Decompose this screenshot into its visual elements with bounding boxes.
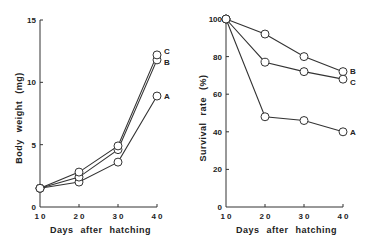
data-point-a xyxy=(339,128,347,136)
y-tick-label: 100 xyxy=(209,15,223,24)
data-point-c xyxy=(75,168,83,176)
series-line-b xyxy=(40,60,157,188)
series-label-c: C xyxy=(350,78,356,87)
x-tick-label: 1 0 xyxy=(220,212,232,221)
data-point-a xyxy=(300,117,308,125)
y-tick-label: 80 xyxy=(213,53,222,62)
x-tick-label: 4 0 xyxy=(151,212,163,221)
x-tick-label: 2 0 xyxy=(73,212,85,221)
y-axis-label: Survival rate (%) xyxy=(198,74,208,161)
data-point-a xyxy=(153,92,161,100)
x-axis-label: Days after hatching xyxy=(50,225,151,235)
data-point-b xyxy=(339,68,347,76)
data-point-c xyxy=(36,184,44,192)
x-tick-label: 1 0 xyxy=(34,212,46,221)
series-label-b: B xyxy=(350,67,356,76)
data-point-c xyxy=(222,15,230,23)
x-tick-label: 3 0 xyxy=(112,212,124,221)
data-point-c xyxy=(114,142,122,150)
data-point-c xyxy=(153,51,161,59)
data-point-c xyxy=(339,75,347,83)
data-point-c xyxy=(300,68,308,76)
survival-rate-chart: 0204060801001 02 03 04 0Days after hatch… xyxy=(198,15,356,235)
y-tick-label: 0 xyxy=(32,203,37,212)
series-line-c xyxy=(40,55,157,188)
y-tick-label: 5 xyxy=(32,141,37,150)
y-tick-label: 0 xyxy=(218,203,223,212)
y-tick-label: 20 xyxy=(213,165,222,174)
body-weight-chart: 0510151 02 03 04 0Days after hatchingBod… xyxy=(14,16,170,235)
data-point-a xyxy=(261,113,269,121)
series-label-b: B xyxy=(164,58,170,67)
y-tick-label: 60 xyxy=(213,90,222,99)
y-axis-label: Body weight (mg) xyxy=(14,72,24,164)
x-tick-label: 4 0 xyxy=(337,212,349,221)
x-tick-label: 2 0 xyxy=(259,212,271,221)
data-point-c xyxy=(261,58,269,66)
data-point-b xyxy=(300,53,308,61)
figure: 0510151 02 03 04 0Days after hatchingBod… xyxy=(0,0,367,249)
y-tick-label: 15 xyxy=(27,16,36,25)
series-label-c: C xyxy=(164,47,170,56)
series-line-c xyxy=(226,19,343,79)
y-tick-label: 10 xyxy=(27,78,36,87)
data-point-b xyxy=(261,30,269,38)
series-line-a xyxy=(40,96,157,188)
x-axis-label: Days after hatching xyxy=(236,225,337,235)
series-label-a: A xyxy=(350,128,356,137)
data-point-a xyxy=(114,158,122,166)
x-tick-label: 3 0 xyxy=(298,212,310,221)
y-tick-label: 40 xyxy=(213,128,222,137)
series-label-a: A xyxy=(164,92,170,101)
